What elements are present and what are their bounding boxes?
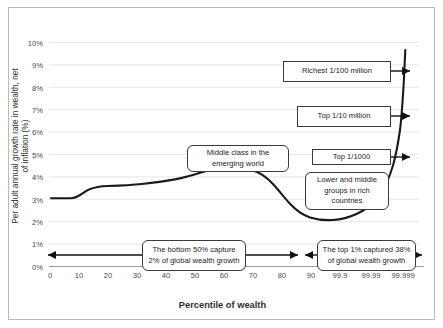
callout-lower-middle-groups-rich-countries: Lower and middle groups in rich countrie… — [305, 172, 389, 210]
callout-top-1-per-1000: Top 1/1000 — [312, 149, 391, 165]
chart-container: Per adult annual growth rate in wealth, … — [8, 7, 435, 320]
x-tick-99-999: 99.999 — [383, 271, 423, 280]
callout-bottom-50-percent: The bottom 50% capture 2% of global weal… — [142, 240, 246, 271]
callout-richest-1-per-100-million: Richest 1/100 million — [283, 61, 391, 82]
callout-top-1-per-10-million: Top 1/10 million — [297, 106, 391, 127]
callout-top-1-percent: The top 1% captured 38% of global wealth… — [317, 240, 416, 271]
x-axis-title: Percentile of wealth — [9, 300, 436, 310]
callout-middle-class-emerging-world: Middle class in the emerging world — [187, 145, 289, 172]
